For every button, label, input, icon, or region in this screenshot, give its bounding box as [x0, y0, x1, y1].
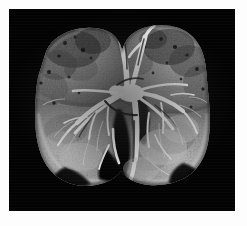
- lung-lobes: [21, 17, 223, 192]
- lung-specimen-svg: [21, 17, 223, 192]
- figure-root: [0, 0, 247, 226]
- lung-specimen: [21, 17, 223, 192]
- photographic-plate: [9, 9, 235, 211]
